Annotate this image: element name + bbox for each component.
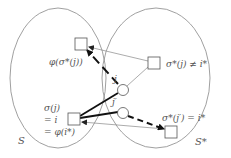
label-i-line3: = φ(i*) <box>44 127 76 137</box>
edge-j-to-sigma-star-j <box>127 67 148 86</box>
label-i-line2: = i <box>44 115 57 125</box>
label-sigma-star-j-prime: σ*(j′) = i* <box>162 113 206 123</box>
label-set-S: S <box>18 135 25 146</box>
label-set-S-star: S* <box>195 136 207 147</box>
node-j-prime <box>118 108 129 119</box>
label-j-prime: j′ <box>110 97 117 107</box>
node-sigma-star-j <box>148 57 160 69</box>
label-sigma-star-j: σ*(j) ≠ i* <box>166 59 208 69</box>
node-i <box>68 113 80 125</box>
diagram-canvas: φ(σ*(j)) σ*(j) ≠ i* j j′ σ(j) = i = φ(i*… <box>0 0 231 158</box>
node-sigma-star-j-prime <box>165 126 177 138</box>
node-j <box>118 85 129 96</box>
label-phi-sigma-star-j: φ(σ*(j)) <box>49 57 83 67</box>
node-phi-sigma-star-j <box>75 38 87 50</box>
edge-sigma-star-j-to-phi <box>89 47 148 61</box>
label-i-line1: σ(j) <box>44 103 60 113</box>
edge-sigma-star-j-prime-to-i <box>82 122 165 129</box>
